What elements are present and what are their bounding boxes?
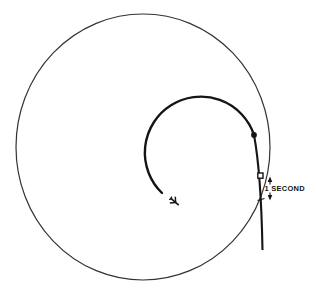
arrow-up-head — [268, 177, 273, 183]
arrow-down-icon — [268, 193, 273, 201]
arrow-down-head — [268, 195, 273, 201]
straight-flight-path — [254, 135, 263, 250]
junction-dot-marker — [251, 132, 257, 138]
one-second-label: 1 SECOND — [265, 184, 306, 193]
bold-turn-arc — [145, 97, 254, 193]
large-turn-circle — [16, 14, 270, 280]
turn-path-diagram: 1 SECOND — [0, 0, 317, 297]
figure-canvas: 1 SECOND — [0, 0, 317, 297]
airplane-icon — [168, 195, 182, 209]
interval-square-marker — [258, 173, 263, 178]
